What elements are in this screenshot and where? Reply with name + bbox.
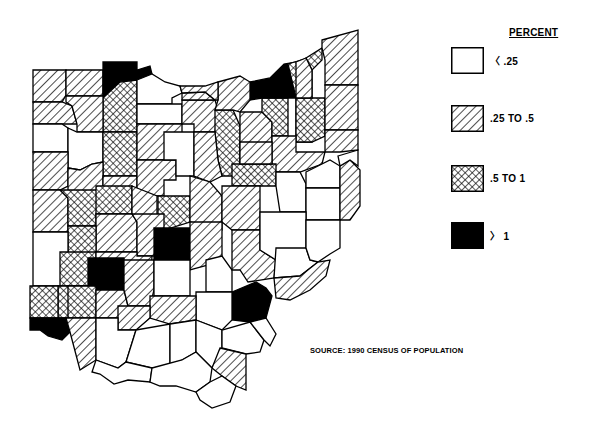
county-region — [30, 286, 58, 318]
legend-label: .25 TO .5 — [490, 113, 534, 124]
county-region — [154, 260, 190, 296]
legend-label: .5 TO 1 — [490, 173, 525, 184]
county-region — [33, 152, 68, 190]
legend-item-25-to-5: .25 TO .5 — [451, 103, 534, 133]
swatch-blank-icon — [451, 47, 484, 74]
county-region — [150, 296, 196, 324]
county-region — [322, 30, 358, 85]
legend-item-5-to-1: .5 TO 1 — [451, 163, 525, 193]
county-region — [66, 70, 103, 96]
county-region — [88, 258, 124, 290]
legend-item-over-1: 〉 1 — [451, 220, 509, 250]
county-region — [96, 186, 132, 214]
county-region — [118, 306, 150, 330]
county-region — [68, 286, 96, 318]
legend-title: PERCENT — [509, 27, 558, 38]
source-note: SOURCE: 1990 CENSUS OF POPULATION — [310, 346, 463, 355]
county-region — [232, 164, 276, 186]
county-region — [137, 74, 182, 104]
county-region — [325, 85, 358, 130]
county-region — [154, 228, 190, 260]
county-region — [182, 100, 218, 132]
county-region — [232, 282, 272, 322]
county-region — [206, 256, 232, 292]
county-region — [222, 186, 260, 230]
county-region — [33, 124, 68, 152]
legend-label: 〈 .25 — [490, 53, 518, 68]
county-region — [30, 318, 70, 340]
swatch-hatch-icon — [451, 105, 484, 132]
county-region — [340, 160, 360, 220]
county-region — [276, 172, 306, 212]
swatch-crosshatch-icon — [451, 165, 484, 192]
county-region — [325, 130, 358, 152]
legend-item-under-25: 〈 .25 — [451, 45, 518, 75]
county-region — [137, 104, 182, 124]
county-region — [33, 70, 66, 102]
county-region — [103, 132, 137, 176]
county-region — [240, 142, 272, 164]
legend-label: 〉 1 — [490, 228, 509, 243]
county-region — [66, 318, 96, 370]
county-region — [306, 188, 340, 220]
county-region — [215, 76, 250, 112]
county-region — [306, 220, 340, 262]
county-region — [296, 98, 325, 142]
county-region — [296, 58, 312, 98]
county-region — [33, 190, 68, 232]
swatch-solid-icon — [451, 222, 484, 249]
county-region — [96, 214, 137, 252]
